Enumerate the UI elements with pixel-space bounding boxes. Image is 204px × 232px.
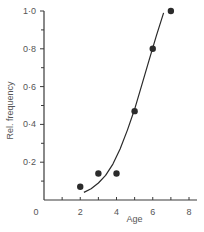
y-tick-label: 0·6 (23, 82, 36, 92)
x-tick-label: 0 (33, 207, 38, 217)
data-point (95, 170, 101, 176)
x-tick-label: 2 (78, 207, 83, 217)
fit-line (84, 13, 164, 193)
y-tick-label: 0·2 (23, 157, 36, 167)
x-tick-label: 6 (150, 207, 155, 217)
data-point (113, 170, 119, 176)
x-tick-label: 4 (114, 207, 119, 217)
x-tick-label: 8 (186, 207, 191, 217)
scatter-chart: 0·20·40·60·81·002468AgeRel. frequency (0, 0, 204, 232)
y-tick-label: 0·4 (23, 119, 36, 129)
axis-labels: 0·20·40·60·81·002468AgeRel. frequency (5, 6, 192, 224)
data-point (77, 184, 83, 190)
data-point (131, 108, 137, 114)
data-point (168, 8, 174, 14)
data-point (150, 46, 156, 52)
y-tick-label: 1·0 (23, 6, 36, 16)
data-points (77, 8, 174, 190)
y-tick-label: 0·8 (23, 44, 36, 54)
y-axis-title: Rel. frequency (5, 81, 15, 140)
x-axis-title: Age (126, 214, 142, 224)
fitted-curve (84, 13, 164, 193)
